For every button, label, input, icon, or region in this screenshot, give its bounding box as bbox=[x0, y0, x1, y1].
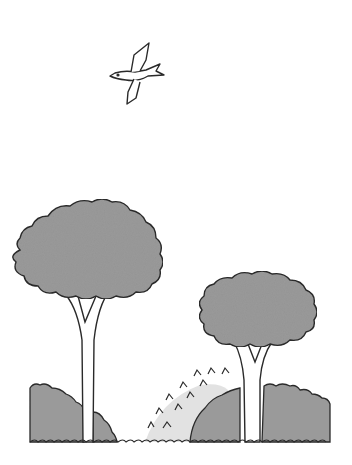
short-tree-canopy bbox=[199, 271, 317, 347]
bird-icon bbox=[110, 43, 164, 104]
tall-tree-canopy bbox=[13, 199, 163, 299]
illustration bbox=[0, 0, 352, 465]
left-bush bbox=[30, 384, 117, 442]
